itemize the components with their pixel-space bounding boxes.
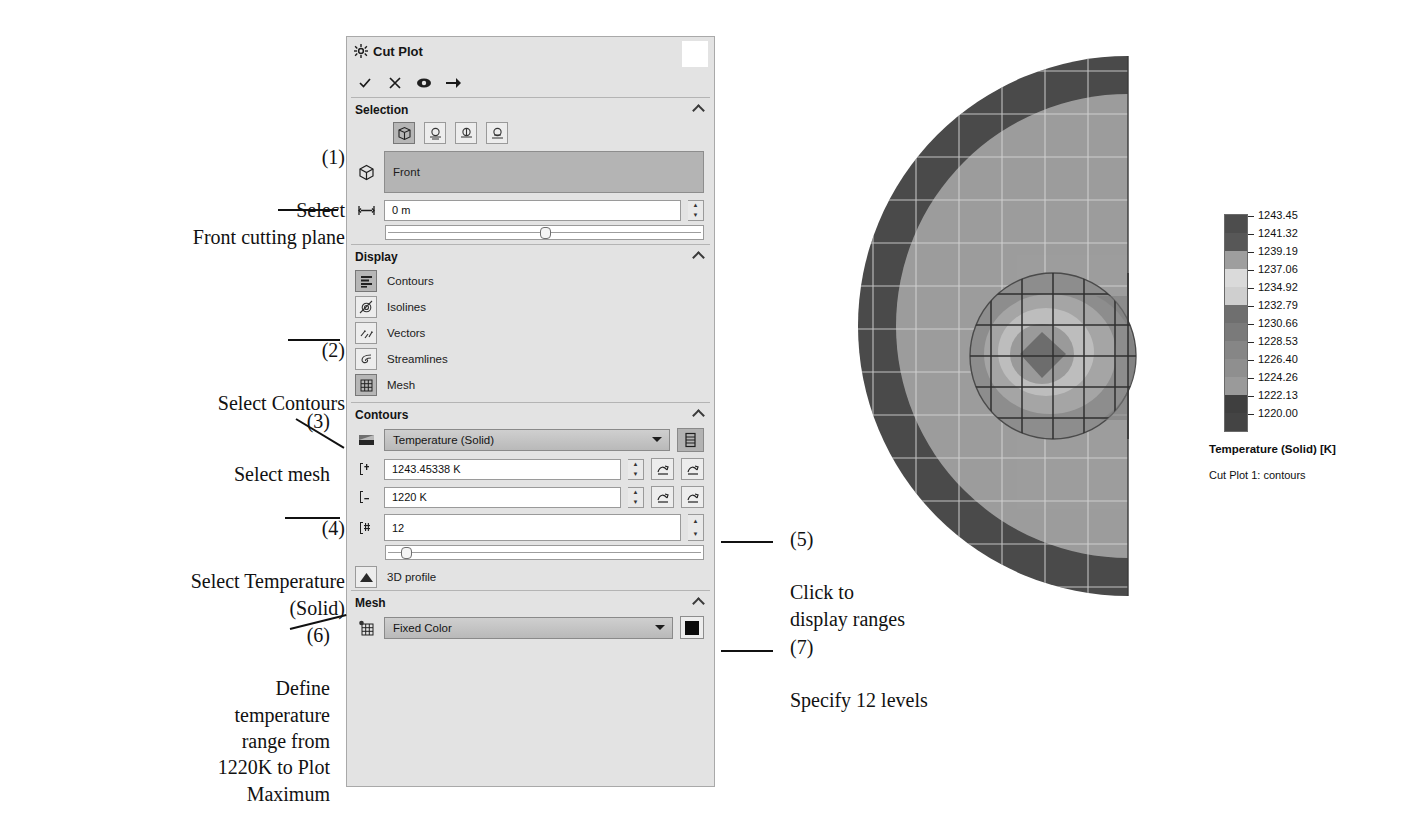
leader-line-7	[721, 650, 773, 652]
mesh-color-row[interactable]: Fixed Color	[347, 613, 714, 642]
legend-tick-label: 1232.79	[1258, 299, 1298, 311]
mesh-color-select[interactable]: Fixed Color	[384, 617, 673, 639]
min-reset-button[interactable]	[651, 486, 674, 508]
reference-plane-value[interactable]: Front	[384, 151, 704, 193]
3d-profile-row[interactable]: 3D profile	[347, 564, 714, 590]
display-option-label: Vectors	[387, 327, 425, 339]
slider-knob[interactable]	[540, 227, 551, 239]
levels-spinner[interactable]: ▲▼	[688, 514, 704, 541]
legend-tick-label: 1234.92	[1258, 281, 1298, 293]
section-header-mesh[interactable]: Mesh	[347, 591, 714, 613]
legend-tick-label: 1222.13	[1258, 389, 1298, 401]
legend-tick-label: 1237.06	[1258, 263, 1298, 275]
min-value-row[interactable]: 1220 K ▲▼	[347, 483, 714, 511]
section-title-contours: Contours	[355, 408, 408, 422]
display-option-mesh[interactable]: Mesh	[347, 372, 714, 398]
legend-band	[1225, 341, 1247, 359]
mesh-icon[interactable]	[355, 374, 377, 396]
levels-input[interactable]: 12	[384, 514, 681, 541]
display-options-list[interactable]: Contours Isolines Vectors	[347, 267, 714, 402]
section-header-selection[interactable]: Selection	[347, 98, 714, 120]
levels-row[interactable]: 12 ▲▼	[347, 511, 714, 544]
streamlines-icon[interactable]	[355, 348, 377, 370]
display-option-isolines[interactable]: Isolines	[347, 294, 714, 320]
display-option-label: Isolines	[387, 301, 426, 313]
display-option-label: Mesh	[387, 379, 415, 391]
offset-icon	[355, 199, 377, 221]
ok-button[interactable]	[355, 73, 375, 93]
reference-plane-row[interactable]: Front	[347, 148, 714, 196]
max-value-input[interactable]: 1243.45338 K	[384, 459, 621, 480]
chevron-down-icon[interactable]	[652, 437, 662, 442]
min-auto-button[interactable]	[681, 486, 704, 508]
isolines-icon[interactable]	[355, 296, 377, 318]
offset-slider[interactable]	[385, 225, 704, 240]
vectors-icon[interactable]	[355, 322, 377, 344]
legend-band	[1225, 359, 1247, 377]
chevron-down-icon[interactable]	[655, 625, 665, 630]
offset-input[interactable]: 0 m	[384, 200, 681, 221]
chevron-up-icon[interactable]	[694, 104, 705, 111]
legend-tick-label: 1239.19	[1258, 245, 1298, 257]
leader-line-5	[721, 541, 773, 543]
display-option-contours[interactable]: Contours	[347, 268, 714, 294]
annotation-4-number: (4)	[85, 515, 345, 541]
levels-slider[interactable]	[385, 545, 704, 560]
selection-mode-buttons[interactable]	[347, 120, 714, 148]
selection-mode-model-c[interactable]	[486, 122, 508, 144]
section-header-contours[interactable]: Contours	[347, 403, 714, 425]
chevron-up-icon[interactable]	[694, 597, 705, 604]
offset-spinner[interactable]: ▲▼	[688, 200, 704, 221]
section-title-selection: Selection	[355, 103, 408, 117]
leader-line-4	[285, 517, 340, 519]
annotation-7-number: (7)	[790, 634, 1020, 660]
display-ranges-button[interactable]	[677, 428, 704, 452]
annotation-1: (1) Select Front cutting plane	[85, 118, 345, 276]
contours-icon[interactable]	[355, 270, 377, 292]
3d-profile-label: 3D profile	[387, 571, 436, 583]
offset-row[interactable]: 0 m ▲▼	[347, 196, 714, 224]
legend-tick-label: 1230.66	[1258, 317, 1298, 329]
panel-toolbar[interactable]	[347, 71, 714, 97]
slider-knob[interactable]	[401, 547, 412, 559]
max-reset-button[interactable]	[651, 458, 674, 480]
selection-mode-model-b[interactable]	[455, 122, 477, 144]
max-value-spinner[interactable]: ▲▼	[628, 459, 644, 480]
section-title-display: Display	[355, 250, 398, 264]
mesh-color-value: Fixed Color	[393, 622, 452, 634]
pin-button[interactable]	[444, 73, 464, 93]
leader-line-1	[278, 209, 338, 211]
legend-tick-label: 1220.00	[1258, 407, 1298, 419]
legend-band	[1225, 323, 1247, 341]
contour-parameter-row[interactable]: Temperature (Solid)	[347, 425, 714, 455]
mesh-color-swatch[interactable]	[680, 616, 704, 639]
min-value-input[interactable]: 1220 K	[384, 487, 621, 508]
3d-profile-icon[interactable]	[355, 566, 377, 588]
legend-band	[1225, 413, 1247, 431]
legend-tick-label: 1228.53	[1258, 335, 1298, 347]
color-legend: 1243.451241.321239.191237.061234.921232.…	[1224, 214, 1324, 432]
max-auto-button[interactable]	[681, 458, 704, 480]
display-option-streamlines[interactable]: Streamlines	[347, 346, 714, 372]
chevron-up-icon[interactable]	[694, 409, 705, 416]
legend-band	[1225, 305, 1247, 323]
min-value-icon	[355, 486, 377, 508]
min-value-spinner[interactable]: ▲▼	[628, 487, 644, 508]
contour-parameter-select[interactable]: Temperature (Solid)	[384, 429, 670, 451]
legend-subcaption: Cut Plot 1: contours	[1209, 469, 1306, 481]
section-header-display[interactable]: Display	[347, 245, 714, 267]
cancel-button[interactable]	[385, 73, 405, 93]
max-value-icon	[355, 458, 377, 480]
selection-mode-plane[interactable]	[393, 122, 415, 144]
max-value-row[interactable]: 1243.45338 K ▲▼	[347, 455, 714, 483]
display-option-label: Streamlines	[387, 353, 448, 365]
cut-plot-property-panel[interactable]: Cut Plot Selection	[346, 36, 715, 787]
mesh-color-icon	[355, 617, 377, 639]
legend-band	[1225, 287, 1247, 305]
preview-eye-button[interactable]	[414, 73, 434, 93]
annotation-6-text: Define temperature range from 1220K to P…	[85, 675, 330, 807]
chevron-up-icon[interactable]	[694, 251, 705, 258]
selection-mode-model-a[interactable]	[424, 122, 446, 144]
legend-band	[1225, 269, 1247, 287]
display-option-vectors[interactable]: Vectors	[347, 320, 714, 346]
